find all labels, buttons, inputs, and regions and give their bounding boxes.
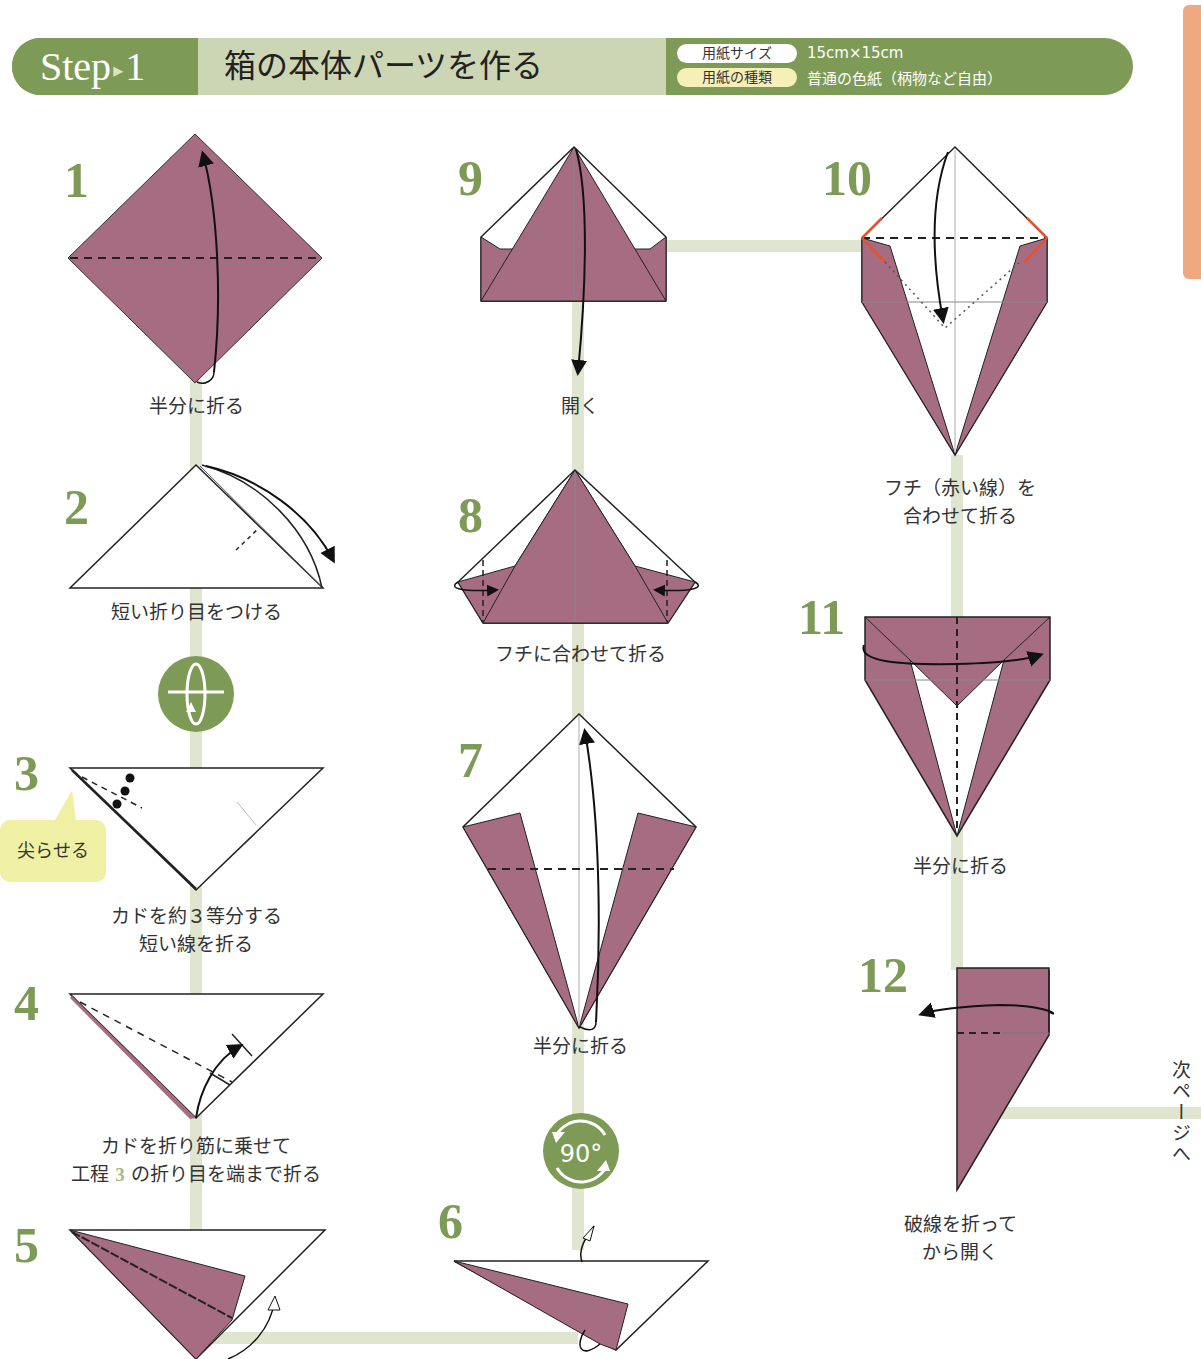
- caption-line: 破線を折って: [860, 1210, 1060, 1238]
- caption-line: 合わせて折る: [850, 502, 1070, 530]
- step10-caption: フチ（赤い線）を 合わせて折る: [850, 474, 1070, 530]
- step-number-12: 12: [858, 950, 908, 1000]
- caption-line: カドを約３等分する: [86, 902, 306, 930]
- flip-over-icon: [158, 656, 234, 732]
- caption-line: カドを折り筋に乗せて: [46, 1132, 346, 1160]
- step-reference: 3: [115, 1164, 125, 1185]
- step7-caption: 半分に折る: [480, 1032, 680, 1060]
- step-number-10: 10: [822, 153, 872, 203]
- flow-path: [196, 246, 1201, 1338]
- step-number-3: 3: [14, 748, 39, 798]
- step2-diagram: [70, 465, 333, 588]
- caption-line: 短い折り目をつける: [111, 601, 282, 623]
- caption-line: フチに合わせて折る: [495, 643, 666, 665]
- step-number-9: 9: [458, 153, 483, 203]
- step-number-5: 5: [14, 1220, 39, 1270]
- step4-diagram: [70, 994, 323, 1119]
- step11-caption: 半分に折る: [860, 852, 1060, 880]
- step8-caption: フチに合わせて折る: [470, 640, 690, 668]
- step7-diagram: [463, 714, 696, 1030]
- caption-line: 工程 3 の折り目を端まで折る: [46, 1160, 346, 1189]
- caption-line: 半分に折る: [149, 395, 244, 417]
- step-number-11: 11: [798, 592, 845, 642]
- bubble-tail: [55, 790, 76, 820]
- step-number-6: 6: [438, 1196, 463, 1246]
- step11-diagram: [863, 617, 1050, 836]
- step-number-8: 8: [458, 490, 483, 540]
- caption-line: 半分に折る: [913, 855, 1008, 877]
- caption-line: フチ（赤い線）を: [850, 474, 1070, 502]
- caption-text: の折り目を端まで折る: [131, 1163, 321, 1185]
- caption-line: 半分に折る: [533, 1035, 628, 1057]
- step-number-2: 2: [64, 482, 89, 532]
- step1-diagram: [68, 134, 322, 383]
- caption-line: 開く: [561, 395, 599, 417]
- tip-bubble: 尖らせる: [0, 820, 106, 882]
- step8-diagram: [455, 470, 699, 623]
- caption-text: 工程: [71, 1163, 109, 1185]
- step12-diagram: [922, 968, 1053, 1190]
- step-number-1: 1: [64, 155, 89, 205]
- step4-caption: カドを折り筋に乗せて 工程 3 の折り目を端まで折る: [46, 1132, 346, 1189]
- caption-line: から開く: [860, 1238, 1060, 1266]
- step-number-7: 7: [458, 735, 483, 785]
- step3-caption: カドを約３等分する 短い線を折る: [86, 902, 306, 958]
- caption-line: 短い線を折る: [86, 930, 306, 958]
- step3-diagram: [70, 768, 323, 890]
- svg-text:90°: 90°: [560, 1140, 603, 1168]
- rotate-90-icon: 90°: [543, 1113, 619, 1189]
- step2-caption: 短い折り目をつける: [86, 598, 306, 626]
- step1-caption: 半分に折る: [96, 392, 296, 420]
- step9-caption: 開く: [520, 392, 640, 420]
- step10-diagram: [862, 147, 1047, 455]
- step-number-4: 4: [14, 978, 39, 1028]
- step12-caption: 破線を折って から開く: [860, 1210, 1060, 1266]
- next-page-link[interactable]: 次ページへ: [1168, 1060, 1194, 1165]
